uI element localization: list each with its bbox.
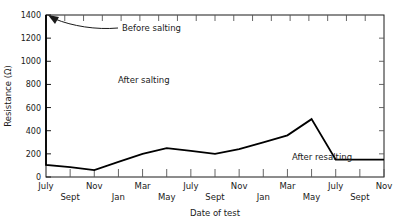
- before-salting-arrowhead-icon: [48, 15, 59, 24]
- x-tick-label: Jan: [256, 192, 270, 202]
- annotation-before-salting: Before salting: [122, 23, 181, 33]
- x-tick-label: July: [327, 181, 343, 191]
- y-tick-label: 400: [26, 127, 41, 136]
- x-tick-label: Nov: [231, 181, 248, 191]
- annotation-after-salting: After salting: [118, 75, 170, 85]
- chart-root: 0200400600800100012001400 JulySeptNovJan…: [0, 0, 406, 224]
- resistance-vs-date-chart: 0200400600800100012001400 JulySeptNovJan…: [0, 0, 406, 224]
- top-axis-minor-ticks: [65, 15, 365, 21]
- y-tick-label: 1200: [21, 34, 41, 43]
- x-axis-tick-labels: JulySeptNovJanMarMayJulySeptNovJanMarMay…: [37, 181, 392, 202]
- x-axis-tick-marks: [70, 169, 384, 177]
- x-tick-label: Nov: [86, 181, 103, 191]
- y-axis-title: Resistance (Ω): [3, 65, 13, 127]
- x-tick-label: Mar: [279, 181, 296, 191]
- annotation-after-resalting: After resalting: [292, 152, 352, 162]
- x-tick-label: July: [37, 181, 53, 191]
- x-tick-label: Sept: [205, 192, 225, 202]
- x-tick-label: Sept: [350, 192, 370, 202]
- x-tick-label: Nov: [376, 181, 393, 191]
- right-axis-minor-ticks: [379, 38, 384, 154]
- x-tick-label: July: [182, 181, 198, 191]
- y-tick-label: 1400: [21, 11, 41, 20]
- x-tick-label: Mar: [135, 181, 152, 191]
- y-tick-label: 800: [26, 80, 41, 89]
- resistance-data-line: [46, 15, 384, 170]
- x-axis-title: Date of test: [190, 208, 241, 218]
- y-axis-tick-labels: 0200400600800100012001400: [21, 11, 41, 182]
- x-tick-label: May: [303, 192, 321, 202]
- x-tick-label: Jan: [111, 192, 125, 202]
- y-tick-label: 600: [26, 104, 41, 113]
- y-tick-label: 200: [26, 150, 41, 159]
- y-tick-label: 1000: [21, 57, 41, 66]
- x-tick-label: May: [158, 192, 176, 202]
- x-tick-label: Sept: [60, 192, 80, 202]
